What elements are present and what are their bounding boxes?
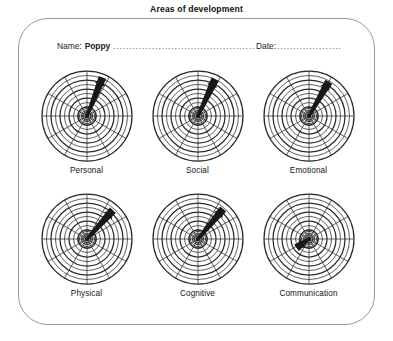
page-title: Areas of development <box>0 4 393 14</box>
radar-dial-emotional[interactable] <box>261 68 357 164</box>
radar-dial-physical[interactable] <box>39 191 135 287</box>
radar-dial-social[interactable] <box>150 68 246 164</box>
dial-cell-communication: Communication <box>253 190 364 313</box>
dial-cell-social: Social <box>142 67 253 190</box>
dial-label-emotional: Emotional <box>253 166 364 175</box>
name-date-row: Name: Poppy ............................… <box>57 41 342 55</box>
date-label: Date: <box>256 41 276 51</box>
dial-label-social: Social <box>142 166 253 175</box>
radar-dial-communication[interactable] <box>261 191 357 287</box>
name-dotted-leader[interactable]: ........................................… <box>113 41 255 51</box>
radar-dial-personal[interactable] <box>39 68 135 164</box>
dial-cell-emotional: Emotional <box>253 67 364 190</box>
dial-label-personal: Personal <box>31 166 142 175</box>
radar-dial-cognitive[interactable] <box>150 191 246 287</box>
worksheet-card: Name: Poppy ............................… <box>18 18 375 325</box>
dial-label-physical: Physical <box>31 289 142 298</box>
dial-label-communication: Communication <box>253 289 364 298</box>
dial-cell-personal: Personal <box>31 67 142 190</box>
date-dotted-leader[interactable]: ........................................… <box>277 41 341 51</box>
name-label: Name: <box>57 41 82 51</box>
name-value[interactable]: Poppy <box>85 41 111 51</box>
dial-cell-cognitive: Cognitive <box>142 190 253 313</box>
dial-grid: PersonalSocialEmotionalPhysicalCognitive… <box>31 67 364 313</box>
dial-label-cognitive: Cognitive <box>142 289 253 298</box>
dial-cell-physical: Physical <box>31 190 142 313</box>
